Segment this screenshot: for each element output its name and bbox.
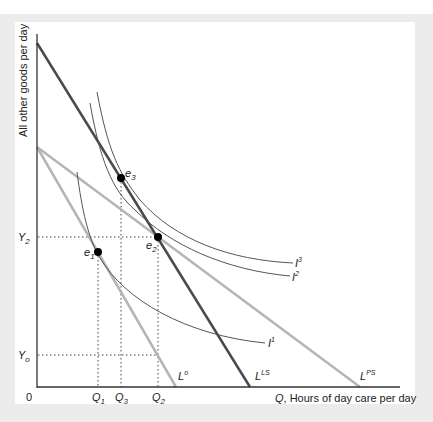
equilibrium-dot-e3 [117, 174, 125, 182]
budget-line-lps [37, 147, 360, 387]
label-i1: I1 [268, 336, 275, 349]
label-i3: I3 [295, 256, 302, 269]
day-care-subsidy-diagram: All other goods per day 0 Y2 Yo Q1 Q3 Q2… [0, 0, 433, 422]
equilibrium-dot-e1 [94, 248, 102, 256]
label-e2: e2 [146, 239, 157, 254]
label-lls: LLS [255, 369, 270, 382]
label-i2: I2 [292, 270, 299, 283]
indifference-curve-i2 [90, 103, 290, 276]
equilibrium-dot-e2 [154, 233, 162, 241]
label-lo: Lo [178, 369, 188, 382]
y-axis-label: All other goods per day [17, 23, 29, 137]
tick-label-q2: Q2 [152, 391, 166, 406]
tick-label-q1: Q1 [92, 391, 105, 406]
tick-label-q3: Q3 [115, 391, 129, 406]
label-lps: LPS [360, 369, 376, 382]
tick-label-yo: Yo [18, 349, 30, 364]
label-e1: e1 [84, 246, 95, 261]
x-axis-label: Q, Hours of day care per day [275, 392, 417, 404]
origin-label: 0 [26, 391, 32, 403]
label-e3: e3 [125, 167, 136, 182]
tick-label-y2: Y2 [18, 231, 30, 246]
budget-line-lls [37, 43, 250, 387]
